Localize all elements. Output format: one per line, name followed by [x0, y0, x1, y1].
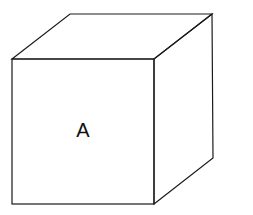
- cube-top-face: [12, 14, 212, 59]
- cube-diagram: A: [0, 0, 253, 215]
- front-face-label: A: [76, 119, 90, 141]
- cube-right-face: [154, 14, 213, 204]
